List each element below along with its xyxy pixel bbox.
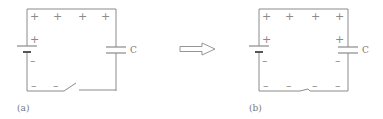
charge-bottom-a-2: – — [53, 79, 59, 92]
charge-battery-top-b: + — [262, 33, 271, 46]
charge-bottom-a-1: – — [31, 79, 37, 92]
panel-label-b: (b) — [249, 103, 262, 113]
charge-top-b-1: + — [262, 10, 271, 23]
charge-top-b-4: + — [335, 10, 344, 23]
charge-battery-top-a: + — [30, 33, 39, 46]
panel-a: C + + + + + – – – (a) — [17, 9, 137, 113]
capacitor-label-b: C — [362, 45, 369, 55]
transition-arrow — [180, 43, 215, 55]
circuit-diagram: C + + + + + – – – (a) C + + + + + — [0, 0, 383, 119]
charge-battery-bottom-b: – — [262, 54, 268, 67]
charge-bottom-b-4: – — [335, 79, 341, 92]
charge-capacitor-bottom-b: – — [335, 54, 341, 67]
charge-bottom-b-3: – — [312, 79, 318, 92]
charge-top-a-3: + — [78, 10, 87, 23]
panel-b: C + + + + + – + – – – – – (b) — [249, 9, 369, 113]
panel-label-a: (a) — [17, 103, 29, 113]
capacitor-label-a: C — [130, 45, 137, 55]
open-switch-a — [64, 83, 76, 91]
charge-top-a-1: + — [30, 10, 39, 23]
arrow-right-icon — [180, 43, 215, 55]
charge-top-b-3: + — [311, 10, 320, 23]
charge-top-a-4: + — [101, 10, 110, 23]
charge-bottom-b-2: – — [286, 79, 292, 92]
charge-top-a-2: + — [53, 10, 62, 23]
charge-top-b-2: + — [285, 10, 294, 23]
charge-capacitor-top-b: + — [335, 33, 344, 46]
charge-bottom-b-1: – — [263, 79, 269, 92]
charge-battery-bottom-a: – — [30, 54, 36, 67]
